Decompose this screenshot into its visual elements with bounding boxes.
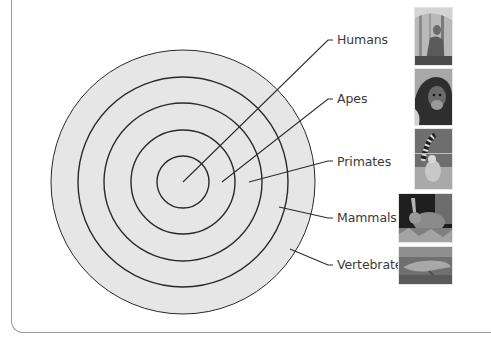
- pointer-line-vertebrates: [290, 249, 333, 265]
- label-apes: Apes: [337, 92, 367, 106]
- human-in-forest-photo: [415, 8, 452, 65]
- label-vertebrates: Vertebrates: [337, 258, 409, 272]
- label-primates: Primates: [337, 155, 391, 169]
- label-mammals: Mammals: [337, 211, 397, 225]
- chimpanzee-photo: [415, 69, 452, 125]
- label-humans: Humans: [337, 33, 388, 47]
- ring-tailed-lemur-photo: [415, 129, 452, 189]
- rabbit-photo: [399, 194, 452, 242]
- crocodile-photo: [399, 247, 452, 284]
